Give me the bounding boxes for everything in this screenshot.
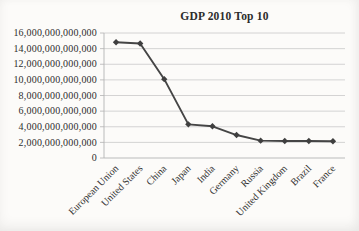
data-point-marker — [209, 123, 215, 129]
x-axis-category-label: Japan — [169, 163, 193, 187]
y-axis-tick-label: 4,000,000,000,000 — [19, 121, 97, 132]
y-axis-tick-label: 2,000,000,000,000 — [19, 137, 97, 148]
y-axis-tick-label: 12,000,000,000,000 — [13, 58, 97, 69]
x-axis-category-label: France — [310, 162, 337, 189]
book-page: GDP 2010 Top 10 02,000,000,000,0004,000,… — [0, 0, 359, 231]
y-axis-tick-label: 14,000,000,000,000 — [13, 43, 97, 54]
y-axis-tick-label: 8,000,000,000,000 — [19, 90, 97, 101]
y-axis-tick-label: 16,000,000,000,000 — [13, 27, 97, 38]
data-point-marker — [282, 138, 288, 144]
x-axis-category-label: China — [144, 162, 169, 187]
data-point-marker — [306, 138, 312, 144]
data-point-marker — [233, 132, 239, 138]
y-axis-tick-label: 10,000,000,000,000 — [13, 74, 97, 85]
data-point-marker — [330, 138, 336, 144]
data-point-marker — [113, 39, 119, 45]
gdp-line-chart: 02,000,000,000,0004,000,000,000,0006,000… — [0, 0, 359, 231]
y-axis-tick-label: 0 — [92, 152, 97, 163]
x-axis-category-label: Brazil — [288, 162, 313, 187]
y-axis-tick-label: 6,000,000,000,000 — [19, 105, 97, 116]
data-point-marker — [257, 137, 263, 143]
